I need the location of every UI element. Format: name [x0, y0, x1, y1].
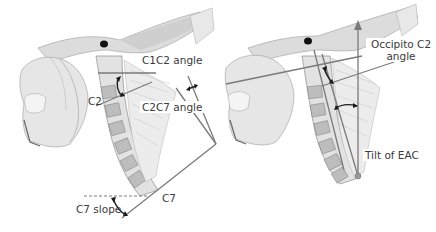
figure: C1C2 angle C2C7 angle C2 C7 C7 slope — [0, 0, 436, 232]
occipito-c2-angle-label-line2: angle — [368, 50, 434, 62]
c1c2-angle-label: C1C2 angle — [140, 54, 205, 66]
c7-slope-label: C7 slope — [74, 203, 123, 215]
right-panel-illustration — [218, 0, 436, 232]
left-panel-c1c2-c2c7-measurements: C1C2 angle C2C7 angle C2 C7 C7 slope — [0, 0, 218, 232]
c2c7-angle-label: C2C7 angle — [140, 101, 205, 113]
c7-label: C7 — [160, 192, 178, 204]
occipital-dot-marker — [100, 41, 108, 48]
left-panel-illustration — [0, 0, 218, 232]
right-panel-occipito-c2-eac-measurements: Occipito C2 angle Tilt of EAC — [218, 0, 436, 232]
occipito-c2-angle-label: Occipito C2 angle — [366, 38, 436, 62]
occipital-dot-marker — [304, 38, 312, 45]
occipito-c2-angle-label-line1: Occipito C2 — [368, 38, 434, 50]
c2-label: C2 — [86, 95, 104, 107]
tilt-of-eac-label: Tilt of EAC — [363, 149, 421, 161]
eac-pivot-marker — [355, 173, 361, 179]
